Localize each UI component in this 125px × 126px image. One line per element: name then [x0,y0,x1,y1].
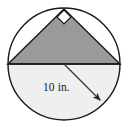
geometry-figure: 10 in. [0,0,125,126]
radius-measurement-label: 10 in. [43,81,70,93]
geometry-canvas: 10 in. [0,0,125,126]
